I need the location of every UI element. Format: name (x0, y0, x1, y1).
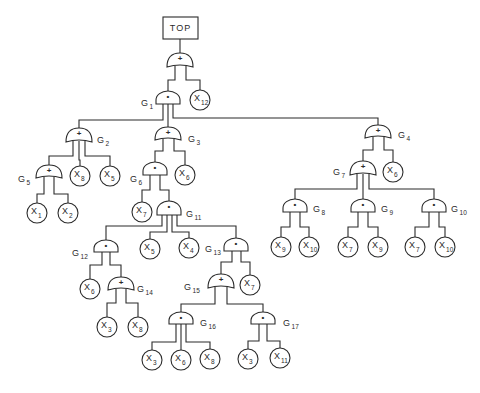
connector-line (107, 289, 116, 317)
connector-line (415, 211, 429, 237)
basic-event-x5: X5 (140, 239, 160, 259)
gate-label: G17 (283, 318, 299, 330)
gate-label: G3 (188, 134, 201, 146)
basic-event-x7: X7 (240, 275, 260, 295)
connector-line (152, 323, 176, 350)
basic-event-x12: X12 (190, 90, 210, 110)
and-symbol: • (235, 239, 238, 248)
or-symbol: + (47, 166, 52, 175)
gate-label: G5 (18, 174, 31, 186)
connector-line (221, 250, 232, 274)
and-symbol: • (362, 200, 365, 209)
basic-event-x4: X4 (179, 238, 199, 258)
gate-and-g6: •G6 (130, 162, 167, 186)
connector-line (174, 139, 185, 165)
connector-line (49, 141, 73, 165)
gate-label: G9 (381, 204, 394, 216)
or-symbol: + (219, 275, 224, 284)
gate-label: G15 (184, 282, 200, 294)
connector-line (267, 323, 280, 348)
and-symbol: • (180, 313, 183, 322)
gate-label: G13 (205, 244, 221, 256)
connector-line (90, 251, 102, 279)
gate-label: G1 (141, 98, 154, 110)
gate-or-g14: +G14 (108, 277, 153, 296)
basic-event-x7: X7 (132, 202, 152, 222)
gate-and-g11: •G11 (157, 201, 202, 221)
connector-line (363, 137, 373, 161)
gate-label: G6 (130, 174, 143, 186)
basic-event-x6: X6 (80, 279, 100, 299)
basic-event-x3: X3 (238, 349, 258, 369)
fault-tree-diagram: TOP TOP+•G1X12+G2+G3+G4+G5X8X5X1X2•G6X6X… (0, 0, 480, 393)
basic-event-x8: X8 (128, 317, 148, 337)
and-symbol: • (168, 202, 171, 211)
basic-event-x2: X2 (58, 203, 78, 223)
basic-event-x10: X10 (435, 237, 455, 257)
gate-label: G16 (200, 318, 216, 330)
basic-event-x3: X3 (142, 350, 162, 370)
gate-or-g3: +G3 (155, 127, 201, 146)
basic-event-x9: X9 (368, 237, 388, 257)
connector-line (300, 211, 309, 237)
connector-line (281, 211, 290, 237)
and-symbol: • (105, 241, 108, 250)
connector-line (248, 323, 259, 349)
basic-event-x7: X7 (405, 237, 425, 257)
or-symbol: + (361, 162, 366, 171)
connector-line (241, 250, 250, 275)
and-symbol: • (262, 313, 265, 322)
and-symbol: • (154, 163, 157, 172)
connector-line (37, 177, 44, 203)
gate-and-g1: •G1 (141, 91, 180, 110)
gate-or-g4: +G4 (365, 125, 411, 142)
connector-line (142, 174, 150, 202)
basic-event-x10: X10 (299, 237, 319, 257)
basic-event-x8: X8 (200, 349, 220, 369)
or-symbol: + (77, 129, 82, 138)
gate-label: G7 (333, 167, 346, 179)
connector-line (384, 137, 393, 162)
connector-line (155, 139, 163, 162)
basic-event-x3: X3 (97, 317, 117, 337)
connector-line (186, 66, 200, 90)
or-symbol: + (376, 126, 381, 135)
top-event: TOP (163, 17, 198, 39)
gate-and-g17: •G17 (251, 312, 299, 330)
connector-layer (37, 39, 445, 350)
connector-line (110, 251, 121, 277)
or-symbol: + (166, 128, 171, 137)
connector-line (79, 141, 80, 166)
node-layer: TOP+•G1X12+G2+G3+G4+G5X8X5X1X2•G6X6X7•G1… (18, 17, 467, 370)
connector-line (168, 66, 175, 91)
basic-event-x6: X6 (175, 165, 195, 185)
gate-and-g12: •G12 (72, 240, 118, 260)
basic-event-x5: X5 (100, 166, 120, 186)
and-symbol: • (294, 200, 297, 209)
gate-label: G14 (137, 284, 153, 296)
gate-or-root: + (167, 53, 193, 67)
gate-or-g5: +G5 (18, 165, 62, 186)
or-symbol: + (119, 278, 124, 287)
basic-event-x11: X11 (270, 348, 290, 368)
basic-event-x6: X6 (171, 350, 191, 370)
basic-event-x1: X1 (27, 203, 47, 223)
basic-event-x8: X8 (70, 166, 90, 186)
gate-label: G4 (398, 130, 411, 142)
connector-line (368, 211, 378, 237)
connector-line (295, 174, 357, 199)
basic-event-x7: X7 (338, 237, 358, 257)
basic-event-x6: X6 (383, 162, 403, 182)
gate-label: G10 (451, 204, 467, 216)
gate-and-g9: •G9 (351, 199, 394, 216)
connector-line (54, 177, 68, 203)
gate-and-g8: •G8 (283, 199, 326, 216)
and-symbol: • (433, 200, 436, 209)
fault-tree-canvas: TOP TOP+•G1X12+G2+G3+G4+G5X8X5X1X2•G6X6X… (0, 0, 480, 393)
gate-label: G8 (313, 204, 326, 216)
connector-line (439, 211, 445, 237)
gate-label: G12 (72, 248, 88, 260)
connector-line (348, 211, 358, 237)
top-event-label: TOP (170, 23, 191, 33)
or-symbol: + (178, 54, 183, 63)
